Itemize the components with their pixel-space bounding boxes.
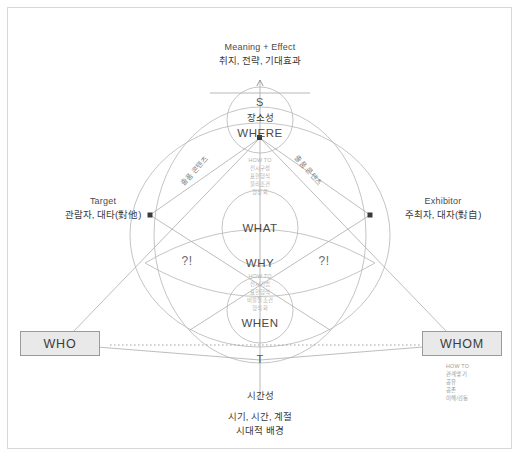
dot-exhibitor-node	[368, 213, 373, 218]
who-node-box[interactable]: WHO	[20, 331, 100, 356]
howto-lower-head: HOW TO	[0, 272, 520, 280]
howto-lower-line-2: 표현형식	[0, 288, 520, 296]
diagram-title-kr: 취지, 전략, 기대효과	[0, 55, 520, 67]
whom-node-label: WHOM	[440, 337, 484, 351]
target-label-en: Target	[48, 196, 158, 207]
who-node-label: WHO	[44, 337, 77, 351]
time-caption-line-2: 시대적 배경	[0, 423, 520, 437]
diagram-title-en: Meaning + Effect	[0, 42, 520, 53]
howto-upper-head: HOW TO	[0, 156, 520, 164]
howto-upper-line-1: 전시구성	[0, 164, 520, 172]
what-label: WHAT	[0, 221, 520, 235]
query-left: ?!	[175, 254, 199, 269]
howto-upper-line-2: 표현형식	[0, 172, 520, 180]
space-axis-kr: 장소성	[0, 112, 520, 124]
space-axis-marker: S	[0, 96, 520, 110]
howto-upper-line-3: 물리조건	[0, 180, 520, 188]
howto-upper-line-4: 형상화	[0, 188, 520, 196]
whom-node-box[interactable]: WHOM	[422, 331, 502, 356]
exhibitor-label-en: Exhibitor	[388, 196, 498, 207]
diagram-canvas: Meaning + Effect 취지, 전략, 기대효과 S 장소성 WHER…	[0, 0, 520, 457]
howto-lower-line-3: 비물질조건	[0, 296, 520, 304]
where-label: WHERE	[0, 126, 520, 140]
exhibitor-label-kr: 주최자, 대자(對自)	[378, 209, 508, 221]
query-right: ?!	[312, 254, 336, 269]
howto-lower-line-4: 형식화	[0, 304, 520, 312]
why-label: WHY	[0, 256, 520, 270]
time-axis-kr: 시간성	[0, 388, 520, 402]
when-label: WHEN	[0, 316, 520, 330]
howto-lower-line-1: 전시기법	[0, 280, 520, 288]
target-label-kr: 관람자, 대타(對他)	[38, 209, 168, 221]
time-caption-line-1: 시기, 시간, 계절	[0, 409, 520, 423]
